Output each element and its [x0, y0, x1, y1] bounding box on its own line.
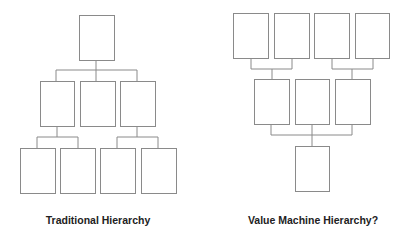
org-box [234, 14, 269, 59]
traditional-hierarchy-diagram [21, 16, 177, 194]
org-box [296, 147, 330, 192]
org-box [121, 82, 156, 127]
org-box [80, 16, 115, 61]
org-box [41, 82, 75, 127]
org-box [101, 149, 136, 194]
org-box [296, 80, 330, 125]
value-machine-hierarchy-diagram [234, 14, 390, 192]
org-box [61, 149, 96, 194]
org-box [142, 149, 177, 194]
org-box [255, 80, 290, 125]
hierarchy-diagrams [0, 0, 406, 248]
org-box [21, 149, 56, 194]
org-box [336, 80, 371, 125]
traditional-hierarchy-label: Traditional Hierarchy [46, 214, 150, 226]
org-box [81, 82, 116, 127]
org-box [315, 14, 350, 59]
org-box [356, 14, 390, 59]
value-machine-hierarchy-label: Value Machine Hierarchy? [248, 214, 378, 226]
org-box [275, 14, 310, 59]
